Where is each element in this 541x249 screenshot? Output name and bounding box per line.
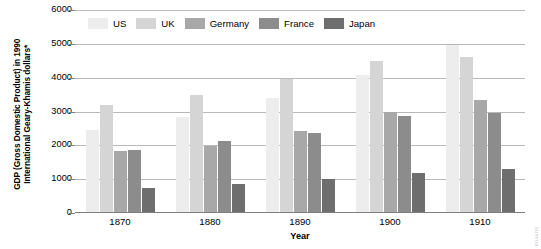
bar-us-1910 <box>446 45 459 213</box>
bar-japan-1910 <box>502 169 515 213</box>
x-axis-tick-label-1870: 1870 <box>75 216 165 227</box>
chart-legend: USUKGermanyFranceJapan <box>88 18 375 29</box>
legend-label: Japan <box>349 18 375 29</box>
bar-france-1880 <box>218 141 231 213</box>
bar-chart: GDP (Gross Domestic Product) in 1990 Int… <box>0 0 541 249</box>
legend-item-japan[interactable]: Japan <box>324 18 375 29</box>
bar-groups <box>75 10 525 213</box>
legend-item-france[interactable]: France <box>259 18 314 29</box>
bar-germany-1890 <box>294 131 307 213</box>
bar-group-1880 <box>165 10 255 213</box>
plot-area: 6000500040003000200010000 <box>75 10 525 213</box>
legend-label: US <box>113 18 126 29</box>
bar-japan-1880 <box>232 184 245 213</box>
bar-us-1870 <box>86 130 99 213</box>
bar-germany-1880 <box>204 146 217 213</box>
y-axis-tick-label: 5000 <box>28 38 72 48</box>
bar-uk-1910 <box>460 57 473 213</box>
x-axis-title: Year <box>75 231 525 241</box>
bar-group-1890 <box>255 10 345 213</box>
legend-swatch-france-icon <box>259 18 279 29</box>
y-axis-tick-mark <box>69 112 75 113</box>
x-axis-tick-labels: 18701880189019001910 <box>75 216 525 227</box>
bar-uk-1900 <box>370 61 383 213</box>
legend-swatch-uk-icon <box>136 18 156 29</box>
bar-group-1870 <box>75 10 165 213</box>
bar-japan-1890 <box>322 179 335 213</box>
bar-us-1880 <box>176 117 189 213</box>
y-axis-tick-label: 4000 <box>28 72 72 82</box>
x-axis-line <box>75 212 525 213</box>
legend-swatch-japan-icon <box>324 18 344 29</box>
bar-japan-1900 <box>412 173 425 213</box>
y-axis-tick-mark <box>69 10 75 11</box>
y-axis-tick-mark <box>69 179 75 180</box>
y-axis-tick-mark <box>69 145 75 146</box>
x-axis-tick-label-1880: 1880 <box>165 216 255 227</box>
bar-us-1900 <box>356 75 369 213</box>
bar-uk-1870 <box>100 105 113 213</box>
watermark: summa <box>534 227 540 247</box>
y-axis-tick-mark <box>69 78 75 79</box>
x-axis-tick-label-1910: 1910 <box>435 216 525 227</box>
bar-germany-1870 <box>114 151 127 213</box>
bar-germany-1900 <box>384 112 397 214</box>
y-axis-tick-label: 3000 <box>28 106 72 116</box>
y-axis-tick-label: 1000 <box>28 173 72 183</box>
legend-label: UK <box>161 18 174 29</box>
x-axis-tick-label-1890: 1890 <box>255 216 345 227</box>
bar-group-1910 <box>435 10 525 213</box>
y-axis-tick-label: 0 <box>28 207 72 217</box>
x-axis-tick-label-1900: 1900 <box>345 216 435 227</box>
y-axis-tick-label: 6000 <box>28 4 72 14</box>
legend-swatch-germany-icon <box>185 18 205 29</box>
legend-swatch-us-icon <box>88 18 108 29</box>
bar-uk-1890 <box>280 79 293 213</box>
bar-japan-1870 <box>142 188 155 213</box>
bar-group-1900 <box>345 10 435 213</box>
bar-france-1890 <box>308 133 321 213</box>
bar-us-1890 <box>266 98 279 213</box>
legend-item-germany[interactable]: Germany <box>185 18 249 29</box>
bar-germany-1910 <box>474 100 487 213</box>
y-axis-tick-label: 2000 <box>28 139 72 149</box>
legend-label: Germany <box>210 18 249 29</box>
y-axis-tick-mark <box>69 213 75 214</box>
bar-france-1900 <box>398 116 411 213</box>
legend-label: France <box>284 18 314 29</box>
bar-uk-1880 <box>190 95 203 213</box>
legend-item-uk[interactable]: UK <box>136 18 174 29</box>
bar-france-1870 <box>128 150 141 213</box>
y-axis-tick-mark <box>69 44 75 45</box>
bar-france-1910 <box>488 113 501 213</box>
legend-item-us[interactable]: US <box>88 18 126 29</box>
